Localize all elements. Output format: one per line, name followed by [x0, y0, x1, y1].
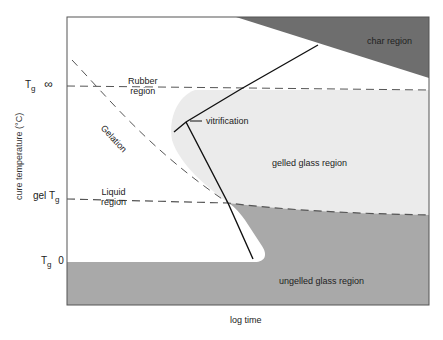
x-axis-label: log time	[230, 315, 262, 325]
tg-inf-line	[67, 86, 429, 90]
y-tick-suffix: 0	[58, 255, 64, 266]
y-tick-sub: g	[47, 260, 51, 269]
y-axis-label: cure temperature (°C)	[14, 113, 24, 200]
y-tick-suffix: ∞	[44, 77, 53, 91]
char-region-area	[236, 17, 429, 78]
ungelled-glass-region-area	[67, 203, 429, 305]
char-region-label: char region	[367, 36, 412, 46]
y-tick-main: gel T	[33, 190, 55, 201]
y-tick-sub: g	[55, 195, 59, 204]
y-tick-sub: g	[31, 84, 35, 93]
liquid-region-label: Liquid region	[101, 187, 126, 207]
ungelled-glass-region-label: ungelled glass region	[279, 276, 364, 286]
ttt-diagram	[0, 0, 443, 340]
rubber-region-label: Rubber region	[128, 76, 158, 96]
liquid-label-line2: region	[101, 197, 126, 207]
gelled-glass-region-label: gelled glass region	[272, 158, 347, 168]
rubber-label-line1: Rubber	[128, 76, 158, 86]
liquid-label-line1: Liquid	[101, 187, 126, 197]
y-tick-gel-tg: gel Tg	[33, 190, 60, 204]
vitrification-label: vitrification	[206, 116, 249, 126]
gelled-glass-region-area	[171, 90, 429, 215]
y-tick-tg-0: Tg 0	[41, 255, 64, 269]
rubber-label-line2: region	[128, 86, 158, 96]
y-tick-tg-inf: Tg ∞	[25, 77, 53, 93]
